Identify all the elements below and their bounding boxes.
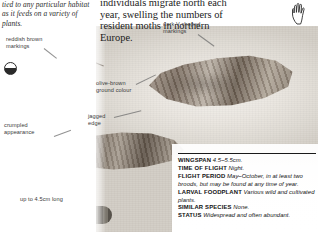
annotation-dark-v-shaped-markings: dark V-shaped markings — [163, 21, 200, 35]
data-row: STATUS Widespread and often abundant. — [178, 212, 318, 220]
data-row-key: WINGSPAN — [178, 157, 211, 163]
half-filled-circle-icon — [4, 62, 17, 75]
data-row: LARVAL FOODPLANT Various wild and cultiv… — [178, 189, 318, 205]
data-row-value: None. — [233, 204, 249, 210]
data-row-value: Night. — [229, 165, 245, 171]
intro-italic-text: tied to any particular habitat as it fee… — [2, 0, 94, 28]
data-row: TIME OF FLIGHT Night. — [178, 165, 318, 173]
data-panel-rule — [178, 153, 316, 154]
data-row-value: Widespread and often abundant. — [203, 212, 290, 218]
data-row: FLIGHT PERIOD May–October, in at least t… — [178, 173, 318, 189]
species-data-panel: WINGSPAN 4.5–5.5cm. TIME OF FLIGHT Night… — [176, 150, 318, 222]
hand-silhouette-icon — [288, 0, 314, 26]
data-row-key: TIME OF FLIGHT — [178, 165, 227, 171]
data-row-key: STATUS — [178, 212, 202, 218]
data-row-key: FLIGHT PERIOD — [178, 173, 225, 179]
annotation-reddish-brown-markings: reddish brown markings — [6, 36, 42, 50]
annotation-caterpillar-length: up to 4.5cm long — [20, 196, 63, 203]
data-row: SIMILAR SPECIES None. — [178, 204, 318, 212]
data-row-key: LARVAL FOODPLANT — [178, 189, 242, 195]
field-guide-page: tied to any particular habitat as it fee… — [0, 0, 318, 232]
annotation-jagged-edge: jagged edge — [88, 113, 105, 127]
data-row-value: 4.5–5.5cm. — [213, 157, 243, 163]
annotation-olive-brown-ground-colour: olive-brown ground colour — [96, 80, 132, 94]
annotation-crumpled-appearance: crumpled appearance — [4, 122, 35, 136]
data-row: WINGSPAN 4.5–5.5cm. — [178, 157, 318, 165]
data-row-key: SIMILAR SPECIES — [178, 204, 232, 210]
